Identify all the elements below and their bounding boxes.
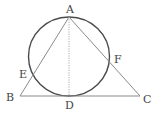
triangle-ABC	[20, 17, 140, 96]
label-A: A	[65, 3, 75, 16]
label-E: E	[19, 68, 27, 81]
label-B: B	[6, 91, 14, 104]
geometry-diagram: A B C D E F	[0, 0, 159, 113]
label-C: C	[143, 93, 151, 106]
label-D: D	[65, 99, 74, 112]
label-F: F	[114, 53, 122, 66]
